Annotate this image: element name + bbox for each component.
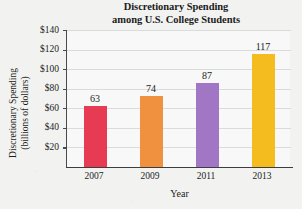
bar-value-label: 117 — [256, 42, 271, 52]
x-axis-tick-label: 2007 — [71, 171, 117, 182]
bar-value-label: 74 — [146, 84, 156, 94]
x-axis-tick-label: 2013 — [239, 171, 285, 182]
bar-value-label: 63 — [90, 94, 100, 104]
x-axis-tick-label: 2009 — [127, 171, 173, 182]
gridline — [67, 30, 291, 31]
bar-rect — [84, 106, 107, 168]
bar: 87 — [196, 83, 219, 168]
y-axis-tick — [63, 147, 67, 148]
bar-rect — [140, 96, 163, 168]
y-axis-tick — [63, 50, 67, 51]
x-axis-tick-label: 2011 — [183, 171, 229, 182]
x-axis-title: Year — [66, 188, 293, 199]
y-axis-tick-label: $20 — [19, 143, 59, 153]
bar: 63 — [84, 106, 107, 168]
bar-chart-figure: Discretionary Spending among U.S. Colleg… — [0, 0, 302, 209]
bar-value-label: 87 — [202, 71, 212, 81]
y-axis-tick — [63, 128, 67, 129]
y-axis-tick — [63, 69, 67, 70]
chart-title-line-1: Discretionary Spending — [124, 1, 229, 12]
bar: 117 — [252, 54, 275, 168]
y-axis-tick-label: $140 — [19, 26, 59, 36]
y-axis-title-line-1: Discretionary Spending — [8, 33, 20, 193]
bar: 74 — [140, 96, 163, 168]
y-axis-tick-label: $40 — [19, 123, 59, 133]
y-axis-tick — [63, 108, 67, 109]
y-axis-tick-label: $120 — [19, 45, 59, 55]
chart-title-line-2: among U.S. College Students — [60, 14, 292, 27]
bar-rect — [252, 54, 275, 168]
y-axis-tick — [63, 89, 67, 90]
plot-area: 637487117 — [66, 30, 290, 168]
y-axis-tick-label: $100 — [19, 65, 59, 75]
bar-rect — [196, 83, 219, 168]
x-axis-line — [66, 167, 293, 168]
y-axis-tick-label: $60 — [19, 104, 59, 114]
chart-title: Discretionary Spending among U.S. Colleg… — [60, 1, 292, 26]
y-axis-tick — [63, 30, 67, 31]
y-axis-tick-label: $80 — [19, 84, 59, 94]
